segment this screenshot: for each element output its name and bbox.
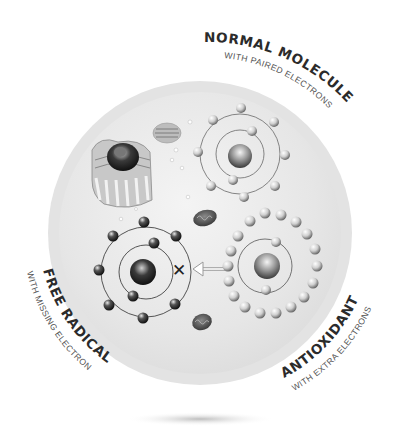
free-radical-diagram: ✕ <box>0 0 402 433</box>
inner-disc <box>59 92 341 374</box>
drop-shadow <box>125 412 275 426</box>
cell-organelle-illustration <box>92 140 152 207</box>
golgi-illustration <box>153 123 181 143</box>
missing-electron-cross: ✕ <box>172 260 186 280</box>
